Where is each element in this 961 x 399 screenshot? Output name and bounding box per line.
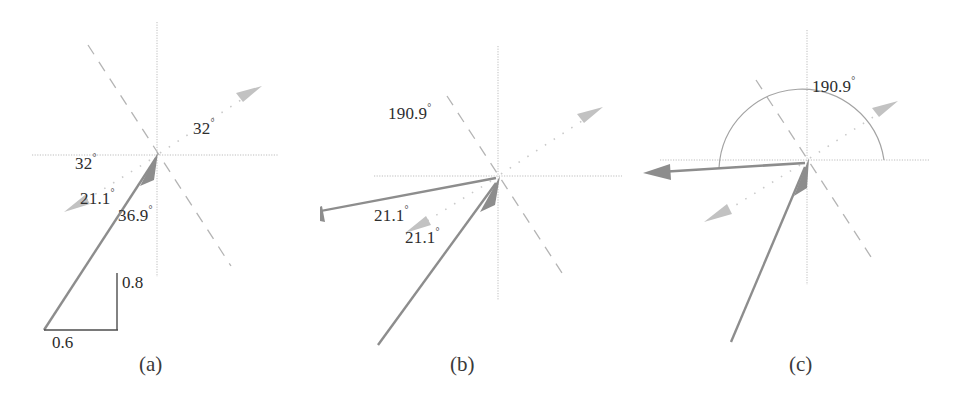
angle-label-32-lower: 32° bbox=[75, 153, 97, 174]
panel-a-canvas bbox=[0, 0, 320, 399]
angle-label-32-upper: 32° bbox=[193, 118, 215, 139]
angle-label-190-9: 190.9° bbox=[388, 103, 431, 124]
solid-vector-head bbox=[140, 152, 158, 186]
dashed-axis bbox=[756, 80, 871, 257]
dotted-arrow-upper-head bbox=[872, 101, 898, 117]
angle-label-190-9: 190.9° bbox=[812, 76, 855, 97]
length-label-0-8: 0.8 bbox=[122, 273, 143, 293]
solid-vector-left-head bbox=[320, 206, 325, 222]
dotted-arrow-upper-shaft bbox=[810, 110, 884, 158]
panel-c-caption: (c) bbox=[789, 352, 812, 377]
dotted-arrow-upper-head bbox=[577, 107, 603, 123]
angle-label-36-9: 36.9° bbox=[118, 205, 153, 226]
dotted-arrow-upper-head bbox=[236, 86, 262, 102]
length-label-0-6: 0.6 bbox=[52, 333, 73, 353]
solid-vector-lower-shaft bbox=[731, 167, 805, 342]
panel-c: 190.9° (c) bbox=[640, 0, 961, 399]
angle-label-21-1-lower: 21.1° bbox=[405, 227, 440, 248]
dotted-arrow-upper-shaft bbox=[501, 117, 588, 174]
dotted-arrow-lower-shaft bbox=[427, 181, 491, 221]
figure-root: 32° 32° 21.1° 36.9° 0.8 0.6 (a) bbox=[0, 0, 961, 399]
angle-label-21-1: 21.1° bbox=[80, 188, 115, 209]
dotted-arrow-lower-head bbox=[704, 204, 732, 222]
panel-a: 32° 32° 21.1° 36.9° 0.8 0.6 (a) bbox=[0, 0, 320, 399]
panel-a-caption: (a) bbox=[139, 352, 162, 377]
angle-label-21-1-upper: 21.1° bbox=[374, 205, 409, 226]
solid-vector-left-head bbox=[643, 164, 671, 180]
panel-b-caption: (b) bbox=[450, 352, 475, 377]
angle-arc bbox=[719, 89, 884, 168]
solid-vector-shaft bbox=[44, 158, 156, 330]
panel-b-canvas bbox=[320, 0, 640, 399]
solid-vector-left-shaft bbox=[660, 163, 805, 172]
panel-c-canvas bbox=[640, 0, 961, 399]
panel-b: 190.9° 21.1° 21.1° (b) bbox=[320, 0, 640, 399]
